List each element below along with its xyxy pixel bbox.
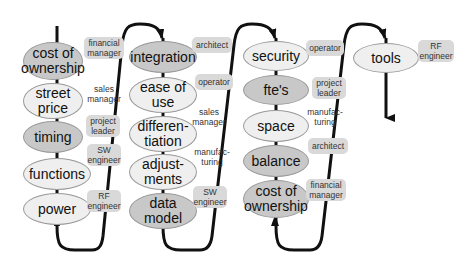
node-adjustments: adjust-ments xyxy=(129,154,197,190)
role-label: operator xyxy=(198,77,230,87)
node-label: cost of ownership xyxy=(21,46,85,76)
role-financial-manager-2: financial manager xyxy=(306,179,346,201)
role-label: architect xyxy=(312,141,344,151)
role-sw-engineer-2: SW engineer xyxy=(193,186,227,208)
role-label: architect xyxy=(196,40,228,50)
node-label: cost of ownership xyxy=(244,184,308,214)
role-financial-manager: financial manager xyxy=(84,37,124,59)
node-differentiation: differen-tiation xyxy=(129,116,197,152)
node-integration: integration xyxy=(129,41,197,73)
role-label: sales manager xyxy=(191,107,227,127)
node-label: differen-tiation xyxy=(130,119,196,149)
node-ftes: fte's xyxy=(243,75,309,105)
role-label: SW engineer xyxy=(87,145,120,165)
role-rf-engineer: RF engineer xyxy=(87,190,121,212)
role-label: sales manager xyxy=(86,84,122,104)
role-manufacturing-2: manufac-turing xyxy=(305,106,345,128)
role-sales-manager: sales manager xyxy=(84,83,124,105)
role-operator-2: operator xyxy=(306,40,344,56)
node-label: street price xyxy=(24,86,82,116)
role-label: manufac-turing xyxy=(194,147,230,167)
node-label: fte's xyxy=(263,83,288,98)
role-label: RF engineer xyxy=(87,191,120,211)
node-label: power xyxy=(38,202,76,217)
role-label: operator xyxy=(309,43,341,53)
role-rf-engineer-2: RF engineer xyxy=(418,40,454,62)
role-operator: operator xyxy=(195,74,233,90)
role-project-leader: project leader xyxy=(86,115,120,137)
role-sales-manager-2: sales manager xyxy=(189,106,229,128)
node-security: security xyxy=(243,41,309,71)
role-label: financial manager xyxy=(308,180,344,200)
node-timing: timing xyxy=(23,121,83,153)
node-functions: functions xyxy=(23,158,91,190)
node-label: ease of use xyxy=(130,80,196,110)
role-label: project leader xyxy=(88,116,118,136)
node-balance: balance xyxy=(243,145,309,177)
node-data-model: data model xyxy=(129,193,197,229)
node-cost-of-ownership: cost of ownership xyxy=(23,42,83,80)
role-label: RF engineer xyxy=(419,41,452,61)
node-label: integration xyxy=(130,50,195,65)
role-project-leader-2: project leader xyxy=(312,77,346,99)
role-sw-engineer: SW engineer xyxy=(87,144,121,166)
node-label: adjust-ments xyxy=(130,157,196,187)
node-space: space xyxy=(243,110,309,142)
node-label: data model xyxy=(130,196,196,226)
node-cost-of-ownership-2: cost of ownership xyxy=(243,180,309,218)
node-label: security xyxy=(252,49,300,64)
role-label: manufac-turing xyxy=(307,107,343,127)
role-label: SW engineer xyxy=(193,187,226,207)
node-label: tools xyxy=(371,51,401,66)
role-architect-2: architect xyxy=(308,138,348,154)
node-tools: tools xyxy=(353,43,419,73)
role-architect: architect xyxy=(192,37,232,53)
role-label: financial manager xyxy=(86,38,122,58)
node-label: space xyxy=(257,119,294,134)
node-power: power xyxy=(23,193,91,225)
role-label: project leader xyxy=(314,78,344,98)
node-label: balance xyxy=(251,154,300,169)
node-street-price: street price xyxy=(23,83,83,119)
role-manufacturing: manufac-turing xyxy=(192,146,232,168)
node-ease-of-use: ease of use xyxy=(129,77,197,113)
node-label: timing xyxy=(34,130,71,145)
node-label: functions xyxy=(29,167,85,182)
